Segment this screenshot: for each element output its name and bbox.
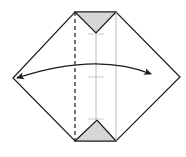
origami-diagram	[0, 0, 186, 157]
